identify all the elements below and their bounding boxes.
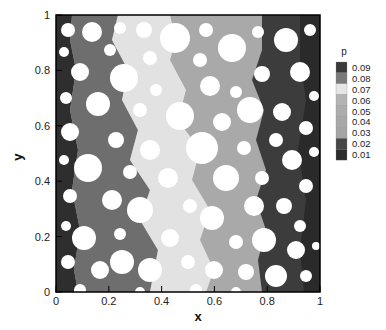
plot-area <box>56 15 320 297</box>
colorbar-label: 0.02 <box>352 138 371 149</box>
colorbar-swatch <box>336 95 347 106</box>
colorbar-label: 0.08 <box>352 73 371 84</box>
colorbar-swatch <box>336 84 347 95</box>
colorbar-labels: 0.090.080.070.060.050.040.030.020.01 <box>352 62 371 160</box>
y-tick-2: 0.4 <box>35 175 50 187</box>
x-tick-1: 0.2 <box>101 295 116 307</box>
y-axis-title: y <box>10 153 25 161</box>
y-tick-4: 0.8 <box>35 64 50 76</box>
colorbar: p 0.090.080.070.060.050.040.030.020.01 <box>336 46 371 160</box>
y-tick-1: 0.2 <box>35 231 50 243</box>
x-tick-5: 1 <box>317 295 323 307</box>
colorbar-swatch <box>336 62 347 73</box>
colorbar-swatch <box>336 117 347 128</box>
colorbar-label: 0.09 <box>352 62 371 73</box>
colorbar-swatch <box>336 149 347 160</box>
x-tick-3: 0.6 <box>207 295 222 307</box>
colorbar-swatch <box>336 73 347 84</box>
colorbar-swatches <box>336 62 347 160</box>
colorbar-title: p <box>341 46 347 57</box>
y-tick-labels: 0 0.2 0.4 0.6 0.8 1 <box>35 9 50 298</box>
y-tick-3: 0.6 <box>35 120 50 132</box>
contour-chart: 0 0.2 0.4 0.6 0.8 1 x 0 0.2 0.4 0.6 0.8 … <box>0 0 386 330</box>
x-tick-2: 0.4 <box>154 295 169 307</box>
colorbar-label: 0.03 <box>352 127 371 138</box>
colorbar-label: 0.06 <box>352 95 371 106</box>
x-tick-0: 0 <box>53 295 59 307</box>
y-tick-5: 1 <box>44 9 50 21</box>
x-axis-title: x <box>194 309 202 324</box>
x-tick-4: 0.8 <box>260 295 275 307</box>
colorbar-swatch <box>336 138 347 149</box>
colorbar-label: 0.07 <box>352 84 371 95</box>
colorbar-swatch <box>336 127 347 138</box>
colorbar-swatch <box>336 106 347 117</box>
y-tick-0: 0 <box>44 286 50 298</box>
x-tick-labels: 0 0.2 0.4 0.6 0.8 1 <box>53 295 323 307</box>
colorbar-label: 0.01 <box>352 149 371 160</box>
colorbar-label: 0.04 <box>352 116 371 127</box>
colorbar-label: 0.05 <box>352 106 371 117</box>
